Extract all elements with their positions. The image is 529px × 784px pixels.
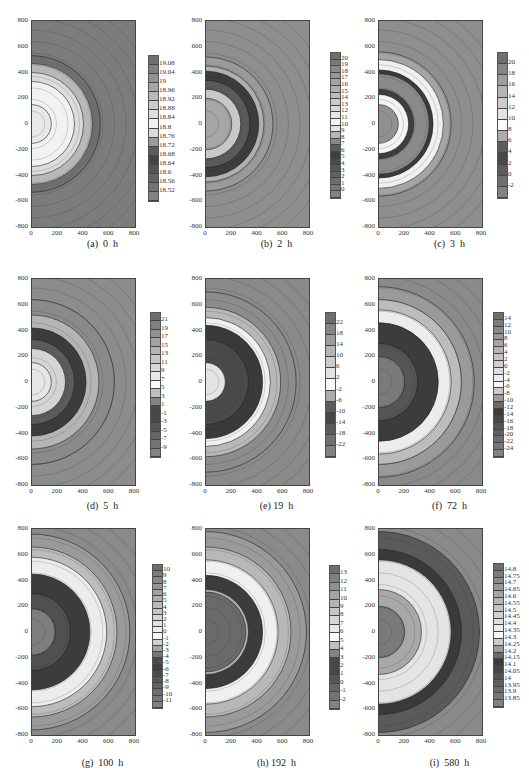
colorbar-swatch [498, 187, 507, 198]
colorbar-swatch [330, 667, 339, 675]
x-tick-label: 0 [368, 487, 388, 495]
colorbar-swatch [326, 335, 335, 346]
x-tick-label: 600 [445, 487, 465, 495]
colorbar-label: -22 [336, 441, 345, 448]
panel-caption-d: (d) 5 h [21, 500, 184, 511]
colorbar-swatch [494, 375, 503, 382]
colorbar-swatch [498, 75, 507, 86]
colorbar-swatch [494, 361, 503, 368]
contour-plot-b [205, 20, 310, 228]
y-tick-label: -200 [4, 403, 28, 411]
colorbar-swatch [498, 86, 507, 97]
y-tick-label: 600 [4, 42, 28, 50]
x-tick-label: 400 [420, 487, 440, 495]
colorbar-swatch [494, 680, 503, 687]
y-tick-label: -200 [351, 653, 375, 661]
colorbar-swatch [494, 598, 503, 605]
colorbar-swatch [330, 625, 339, 633]
y-tick-label: 400 [4, 68, 28, 76]
colorbar-label: 6 [340, 628, 344, 635]
colorbar-label: -7 [161, 435, 167, 442]
colorbar-label: 6 [508, 137, 512, 144]
y-tick-label: 400 [4, 576, 28, 584]
colorbar-label: -2 [508, 182, 514, 189]
y-tick-label: -200 [4, 145, 28, 153]
colorbar-a [148, 55, 159, 202]
panel-caption-e: (e) 19 h [195, 500, 358, 511]
colorbar-swatch [330, 701, 339, 709]
colorbar-label: 5 [161, 384, 165, 391]
colorbar-label: 15 [161, 342, 168, 349]
colorbar-label: 18.76 [159, 133, 175, 140]
colorbar-swatch [330, 650, 339, 658]
y-tick-label: 400 [178, 326, 202, 334]
colorbar-swatch [494, 700, 503, 707]
x-tick-label: 200 [394, 487, 414, 495]
y-tick-label: -200 [351, 145, 375, 153]
colorbar-swatch [149, 183, 158, 192]
colorbar-swatch [494, 578, 503, 585]
colorbar-i [493, 563, 504, 708]
colorbar-swatch [494, 666, 503, 673]
colorbar-swatch [494, 564, 503, 571]
contour-plot-a [31, 20, 136, 228]
y-tick-label: 0 [4, 119, 28, 127]
x-tick-label: 0 [21, 737, 41, 745]
colorbar-swatch [331, 99, 340, 106]
y-tick-label: 400 [4, 326, 28, 334]
y-tick-label: -400 [351, 171, 375, 179]
colorbar-swatch [326, 402, 335, 413]
colorbar-swatch [151, 355, 160, 363]
colorbar-label: 1 [340, 670, 344, 677]
colorbar-swatch [151, 330, 160, 338]
panel-caption-a: (a) 0 h [21, 238, 184, 249]
y-tick-label: 600 [4, 300, 28, 308]
x-tick-label: 400 [73, 737, 93, 745]
y-tick-label: -400 [178, 429, 202, 437]
colorbar-swatch [151, 389, 160, 397]
colorbar-swatch [151, 449, 160, 457]
panel-caption-f: (f) 72 h [368, 500, 529, 511]
colorbar-label: 0 [340, 679, 344, 686]
colorbar-swatch [330, 658, 339, 666]
y-tick-label: 800 [4, 274, 28, 282]
x-tick-label: 0 [21, 487, 41, 495]
colorbar-swatch [331, 112, 340, 119]
x-tick-label: 600 [272, 487, 292, 495]
colorbar-swatch [494, 653, 503, 660]
y-tick-label: 800 [178, 16, 202, 24]
colorbar-swatch [149, 138, 158, 147]
colorbar-swatch [498, 53, 507, 64]
colorbar-label: 7 [340, 620, 344, 627]
colorbar-swatch [326, 368, 335, 379]
colorbar-label: 6 [336, 363, 340, 370]
colorbar-f [493, 312, 504, 458]
x-tick-label: 200 [47, 229, 67, 237]
colorbar-swatch [330, 642, 339, 650]
y-tick-label: 0 [4, 377, 28, 385]
colorbar-swatch [494, 612, 503, 619]
colorbar-label: 18.72 [159, 142, 175, 149]
colorbar-swatch [494, 632, 503, 639]
y-tick-label: 800 [4, 16, 28, 24]
colorbar-swatch [494, 584, 503, 591]
colorbar-label: -3 [161, 418, 167, 425]
x-tick-label: 600 [98, 487, 118, 495]
colorbar-swatch [330, 591, 339, 599]
y-tick-label: 600 [178, 300, 202, 308]
colorbar-label: 8 [340, 611, 344, 618]
colorbar-swatch [494, 646, 503, 653]
x-tick-label: 600 [98, 737, 118, 745]
colorbar-swatch [151, 440, 160, 448]
y-tick-label: 800 [351, 16, 375, 24]
y-tick-label: 200 [178, 93, 202, 101]
y-tick-label: 600 [351, 300, 375, 308]
y-tick-label: 200 [4, 351, 28, 359]
x-tick-label: 800 [124, 737, 144, 745]
colorbar-h [329, 565, 340, 710]
colorbar-swatch [331, 145, 340, 152]
colorbar-swatch [330, 692, 339, 700]
colorbar-label: 0 [341, 186, 345, 193]
colorbar-swatch [494, 436, 503, 443]
y-tick-label: -200 [178, 145, 202, 153]
